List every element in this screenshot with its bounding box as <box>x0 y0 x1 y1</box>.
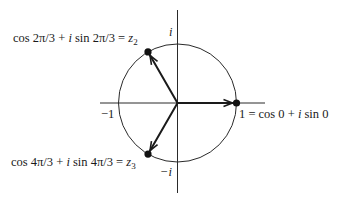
label-z3: cos 4π/3 + i sin 4π/3 = z3 <box>11 155 136 171</box>
label-z2-part-2: sin 2π/3 = <box>72 31 128 45</box>
point-z2 <box>144 48 151 55</box>
label-z2-subscript: 2 <box>133 37 138 47</box>
label-z2: cos 2π/3 + i sin 2π/3 = z2 <box>13 31 138 47</box>
label-z1: 1 = cos 0 + i sin 0 <box>239 107 328 121</box>
label-z3-part-0: cos 4π/3 + <box>11 155 66 169</box>
label-z3-part-2: sin 4π/3 = <box>70 155 126 169</box>
vector-z3 <box>150 103 178 151</box>
label-neg-real: −1 <box>101 107 114 121</box>
label-neg-imag: −i <box>160 165 172 179</box>
label-z1-part-0: 1 = cos 0 + <box>239 107 298 121</box>
point-z3 <box>144 150 151 157</box>
label-z3-subscript: 3 <box>131 161 136 171</box>
label-pos-imag: i <box>169 25 173 39</box>
label-z1-part-2: sin 0 <box>301 107 328 121</box>
label-neg-imag-text: −i <box>160 165 172 179</box>
label-z2-part-0: cos 2π/3 + <box>13 31 68 45</box>
vector-z2 <box>150 55 178 103</box>
point-z1 <box>233 99 240 106</box>
unit-circle-diagram: i −i −1 1 = cos 0 + i sin 0 cos 2π/3 + i… <box>0 0 340 204</box>
